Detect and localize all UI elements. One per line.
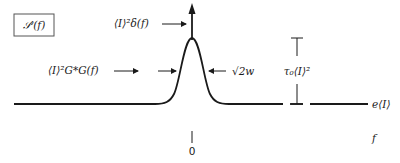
- gaussian-label: ⟨I⟩²G*G(f): [48, 64, 99, 76]
- width-annotation: √2w: [209, 65, 254, 77]
- delta-spike: [189, 3, 196, 40]
- gaussian-annotation: ⟨I⟩²G*G(f): [48, 64, 176, 76]
- ordinate-label: 𝒮ᴵ(f): [23, 19, 46, 31]
- delta-label: ⟨I⟩²δ(f): [114, 17, 149, 29]
- height-label: τ₀⟨I⟩²: [284, 65, 311, 77]
- delta-annotation: ⟨I⟩²δ(f): [114, 17, 186, 29]
- shot-noise-label: e⟨I⟩: [372, 98, 391, 110]
- spectral-density-diagram: 𝒮ᴵ(f) ⟨I⟩²δ(f) e⟨I⟩ ⟨I⟩²G*G(f) √2w τ₀⟨I⟩…: [0, 0, 400, 163]
- width-label: √2w: [232, 65, 254, 77]
- axis-label: f: [371, 132, 378, 144]
- origin-tick-label: 0: [189, 145, 196, 157]
- ordinate-label-box: 𝒮ᴵ(f): [14, 14, 54, 36]
- arrow-up-icon: [189, 3, 196, 14]
- frequency-axis: 0 f: [14, 131, 378, 157]
- height-bracket: τ₀⟨I⟩²: [284, 38, 311, 104]
